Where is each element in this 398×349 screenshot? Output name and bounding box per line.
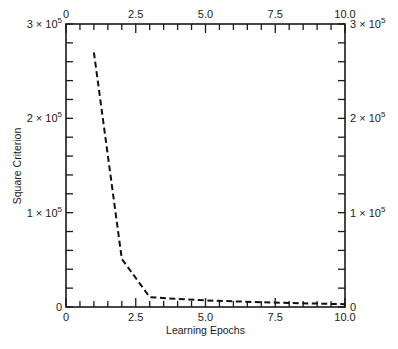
x-tick-label-top: 7.5 bbox=[268, 8, 283, 20]
line-chart: 02.55.07.510.0 02.55.07.510.0 01 × 1052 … bbox=[0, 0, 398, 349]
y-tick-label-right: 2 × 105 bbox=[350, 110, 386, 124]
axis-ticks bbox=[66, 24, 345, 307]
series-line bbox=[94, 52, 345, 304]
x-tick-label: 0 bbox=[63, 311, 69, 323]
y-tick-label-right: 0 bbox=[350, 301, 356, 313]
y-axis-tick-labels-left: 01 × 1052 × 1053 × 105 bbox=[27, 16, 63, 313]
x-axis-title: Learning Epochs bbox=[166, 324, 245, 336]
y-tick-label: 3 × 105 bbox=[27, 16, 63, 30]
y-tick-label: 2 × 105 bbox=[27, 110, 63, 124]
x-tick-label-top: 5.0 bbox=[198, 8, 213, 20]
y-tick-label-right: 1 × 105 bbox=[350, 205, 386, 219]
y-axis-tick-labels-right: 01 × 1052 × 1053 × 105 bbox=[350, 16, 386, 313]
plot-frame bbox=[66, 24, 345, 307]
y-tick-label: 0 bbox=[56, 301, 62, 313]
y-tick-label-right: 3 × 105 bbox=[350, 16, 386, 30]
x-tick-label-top: 0 bbox=[63, 8, 69, 20]
y-axis-title: Square Criterion bbox=[11, 128, 23, 205]
data-series bbox=[94, 52, 345, 304]
x-tick-label: 2.5 bbox=[128, 311, 143, 323]
x-tick-label: 5.0 bbox=[198, 311, 213, 323]
x-axis-tick-labels-top: 02.55.07.510.0 bbox=[63, 8, 356, 20]
y-tick-label: 1 × 105 bbox=[27, 205, 63, 219]
plot-border bbox=[66, 24, 345, 307]
x-tick-label-top: 2.5 bbox=[128, 8, 143, 20]
x-tick-label: 7.5 bbox=[268, 311, 283, 323]
x-axis-tick-labels-bottom: 02.55.07.510.0 bbox=[63, 311, 356, 323]
